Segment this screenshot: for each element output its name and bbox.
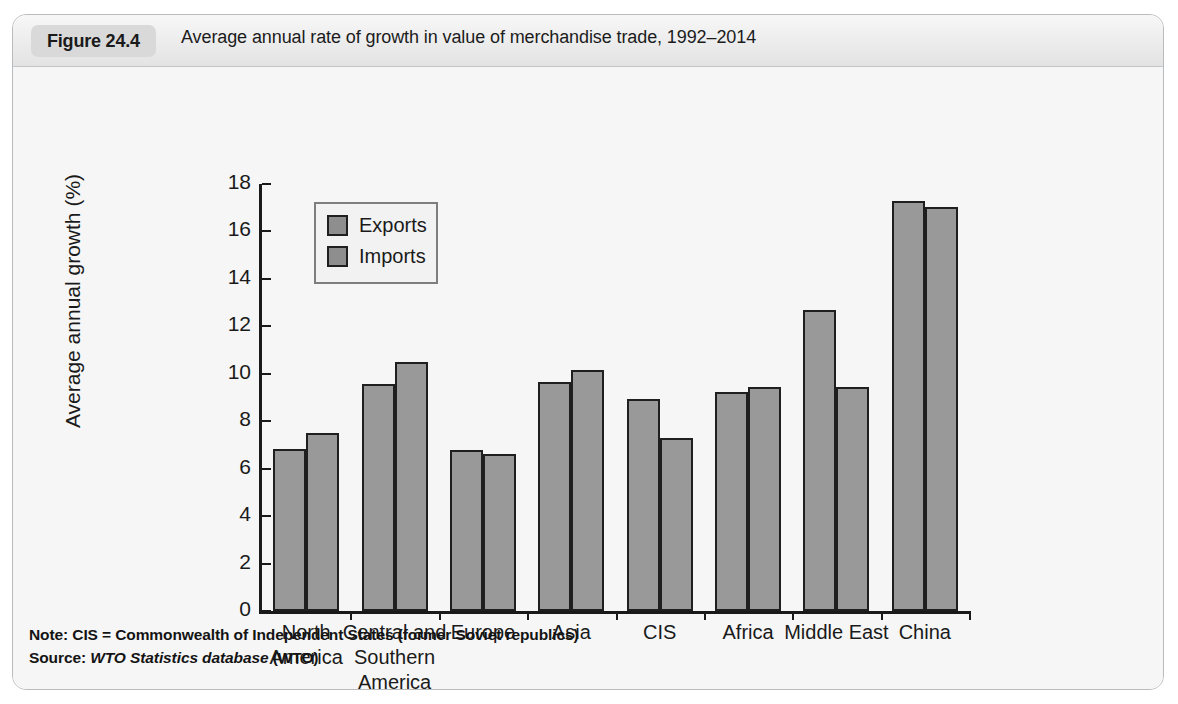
- y-tick-label: 8: [205, 407, 251, 431]
- source-suffix: (WTO): [269, 649, 319, 666]
- y-tick-label: 16: [205, 217, 251, 241]
- bar-imports: [483, 454, 516, 611]
- x-tick: [527, 611, 529, 620]
- x-tick: [439, 611, 441, 620]
- bar-exports: [450, 450, 483, 611]
- bar-exports: [627, 399, 660, 611]
- x-axis-line: [259, 611, 969, 614]
- x-tick: [350, 611, 352, 620]
- x-tick: [881, 611, 883, 620]
- figure-number-badge: Figure 24.4: [31, 25, 156, 57]
- x-tick: [616, 611, 618, 620]
- y-tick: [262, 468, 271, 470]
- x-tick: [792, 611, 794, 620]
- figure-body: Average annual growth (%) 02468101214161…: [13, 67, 1163, 690]
- y-tick: [262, 563, 271, 565]
- x-tick: [969, 611, 971, 620]
- y-axis-line: [259, 184, 262, 613]
- figure-container: Figure 24.4 Average annual rate of growt…: [12, 14, 1164, 690]
- bar-imports: [836, 387, 869, 611]
- legend-swatch-icon-imports: [327, 246, 348, 267]
- figure-header: Figure 24.4 Average annual rate of growt…: [13, 15, 1163, 67]
- bar-imports: [306, 433, 339, 611]
- bar-imports: [571, 370, 604, 611]
- legend-item-exports: Exports: [327, 214, 427, 237]
- y-tick: [262, 373, 271, 375]
- bar-exports: [273, 449, 306, 611]
- x-tick: [704, 611, 706, 620]
- y-tick-label: 2: [205, 550, 251, 574]
- y-tick-label: 10: [205, 360, 251, 384]
- legend-item-imports: Imports: [327, 245, 426, 268]
- bar-imports: [660, 438, 693, 611]
- y-tick-label: 18: [205, 170, 251, 194]
- y-tick: [262, 183, 271, 185]
- bar-imports: [395, 362, 428, 611]
- bar-exports: [362, 384, 395, 611]
- bar-exports: [803, 310, 836, 611]
- y-tick-label: 4: [205, 502, 251, 526]
- y-tick: [262, 278, 271, 280]
- y-tick: [262, 420, 271, 422]
- chart-legend: Exports Imports: [314, 202, 438, 284]
- y-tick-label: 14: [205, 265, 251, 289]
- y-tick: [262, 515, 271, 517]
- figure-note: Note: CIS = Commonwealth of Independent …: [29, 623, 579, 646]
- y-axis-title: Average annual growth (%): [61, 151, 85, 451]
- y-tick: [262, 230, 271, 232]
- source-prefix: Source:: [29, 649, 90, 666]
- legend-swatch-icon-exports: [327, 215, 348, 236]
- figure-footnotes: Note: CIS = Commonwealth of Independent …: [29, 623, 579, 669]
- source-title: WTO Statistics database: [90, 649, 268, 666]
- y-tick: [262, 325, 271, 327]
- bar-exports: [892, 201, 925, 611]
- x-category-label: China: [859, 620, 991, 645]
- bar-chart-plot: Average annual growth (%) 02468101214161…: [13, 67, 1164, 587]
- bar-imports: [925, 207, 958, 611]
- y-tick-label: 0: [205, 597, 251, 621]
- figure-source: Source: WTO Statistics database (WTO): [29, 646, 579, 669]
- y-tick: [262, 610, 271, 612]
- legend-label-exports: Exports: [359, 214, 427, 237]
- y-tick-label: 12: [205, 312, 251, 336]
- figure-title: Average annual rate of growth in value o…: [181, 27, 756, 48]
- bar-imports: [748, 387, 781, 611]
- y-tick-label: 6: [205, 455, 251, 479]
- bar-exports: [538, 382, 571, 611]
- legend-label-imports: Imports: [359, 245, 426, 268]
- bar-exports: [715, 392, 748, 611]
